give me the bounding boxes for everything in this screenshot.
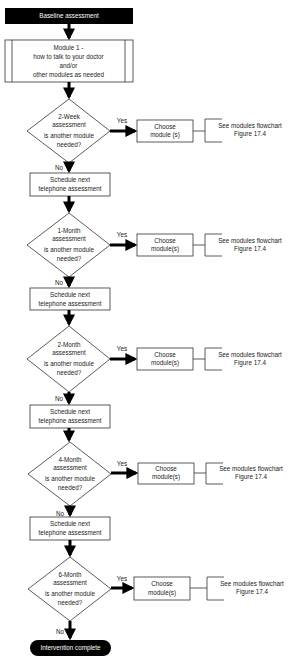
decision-title-2-month: 2-Month <box>29 341 109 349</box>
decision-question-l1-4-month: is another module <box>30 475 110 483</box>
decision-title-4-month: 4-Month <box>30 456 110 464</box>
decision-question-l1-2-month: is another module <box>29 360 109 368</box>
no-label-2-week: No <box>52 164 66 172</box>
module1-line-3: and/or <box>12 61 125 70</box>
decision-diamond-6-month <box>28 557 111 621</box>
schedule-l2-2-week: telephone assessment <box>30 185 110 193</box>
ref-l1-4-month: See modules flowchart <box>209 465 293 473</box>
yes-label-2-week: Yes <box>115 117 129 125</box>
schedule-l1-2-month: Schedule next <box>30 408 110 416</box>
choose-l2-4-month: module(s) <box>138 473 194 481</box>
schedule-l1-1-month: Schedule next <box>30 291 110 299</box>
decision-line2-2-month: assessment <box>29 349 109 357</box>
decision-question-l2-1-month: needed? <box>29 255 109 263</box>
decision-diamond-2-month <box>27 326 110 392</box>
decision-line2-4-month: assessment <box>30 464 110 472</box>
no-label-1-month: No <box>52 279 66 287</box>
flowchart-canvas <box>0 0 298 662</box>
module1-line-4: other modules as needed <box>12 70 125 79</box>
ref-l2-6-month: Figure 17.4 <box>210 588 294 596</box>
decision-line2-1-month: assessment <box>29 235 109 243</box>
decision-line2-2-week: assessment <box>29 121 109 129</box>
ref-l1-2-week: See modules flowchart <box>208 122 292 130</box>
decision-title-2-week: 2-Week <box>29 113 109 121</box>
decision-title-1-month: 1-Month <box>29 227 109 235</box>
choose-l2-1-month: module(s) <box>137 245 193 253</box>
choose-l2-6-month: module(s) <box>134 589 190 597</box>
yes-label-6-month: Yes <box>115 575 129 583</box>
schedule-l1-4-month: Schedule next <box>30 520 110 528</box>
decision-diamond-1-month <box>27 213 110 277</box>
decision-question-l1-1-month: is another module <box>29 246 109 254</box>
yes-label-2-month: Yes <box>115 345 129 353</box>
decision-question-l2-2-week: needed? <box>29 141 109 149</box>
no-label-4-month: No <box>53 510 67 518</box>
decision-question-l1-6-month: is another module <box>30 590 110 598</box>
yes-label-4-month: Yes <box>115 460 129 468</box>
ref-l2-2-week: Figure 17.4 <box>208 130 292 138</box>
choose-l1-4-month: Choose <box>138 465 194 473</box>
decision-question-l2-6-month: needed? <box>30 599 110 607</box>
ref-l2-4-month: Figure 17.4 <box>209 473 293 481</box>
choose-l2-2-week: module (s) <box>137 131 193 139</box>
ref-l1-2-month: See modules flowchart <box>208 351 292 359</box>
yes-label-1-month: Yes <box>115 231 129 239</box>
ref-l1-6-month: See modules flowchart <box>210 580 294 588</box>
no-label-2-month: No <box>52 395 66 403</box>
choose-l1-1-month: Choose <box>137 237 193 245</box>
schedule-l2-2-month: telephone assessment <box>30 417 110 425</box>
no-label-6-month: No <box>53 628 67 636</box>
module1-line-1: Module 1 - <box>12 43 125 52</box>
choose-l1-6-month: Choose <box>134 580 190 588</box>
decision-question-l2-2-month: needed? <box>29 369 109 377</box>
choose-l2-2-month: module(s) <box>137 359 193 367</box>
decision-line2-6-month: assessment <box>30 579 110 587</box>
ref-l2-2-month: Figure 17.4 <box>208 359 292 367</box>
decision-question-l2-4-month: needed? <box>30 484 110 492</box>
module1-text: Module 1 - how to talk to your doctor an… <box>12 43 125 79</box>
end-label: Intervention complete <box>30 644 111 652</box>
choose-l1-2-week: Choose <box>137 123 193 131</box>
start-label: Baseline assessment <box>5 12 133 20</box>
schedule-l2-4-month: telephone assessment <box>30 529 110 537</box>
ref-l2-1-month: Figure 17.4 <box>208 245 292 253</box>
module1-line-2: how to talk to your doctor <box>12 52 125 61</box>
decision-diamond-4-month <box>28 442 111 506</box>
decision-diamond-2-week <box>27 99 110 163</box>
schedule-l2-1-month: telephone assessment <box>30 300 110 308</box>
schedule-l1-2-week: Schedule next <box>30 176 110 184</box>
ref-l1-1-month: See modules flowchart <box>208 237 292 245</box>
choose-l1-2-month: Choose <box>137 351 193 359</box>
decision-title-6-month: 6-Month <box>30 571 110 579</box>
decision-question-l1-2-week: is another module <box>29 132 109 140</box>
